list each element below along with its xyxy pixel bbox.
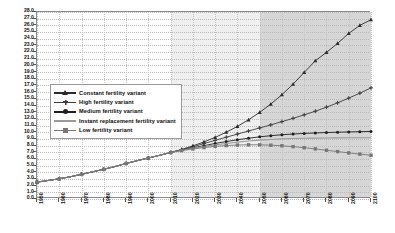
series-marker	[225, 144, 228, 147]
series-marker	[292, 133, 295, 136]
x-axis-tick	[103, 198, 104, 202]
y-axis-label: 8.0	[0, 142, 34, 147]
y-axis-label: 27.0	[0, 15, 34, 20]
series-marker	[324, 105, 328, 109]
legend-item-0[interactable]: Constant fertility variant	[54, 88, 176, 97]
y-axis-label: 28.0	[0, 8, 34, 13]
series-marker	[213, 138, 217, 142]
x-axis-tick	[170, 198, 171, 202]
y-axis-tick	[33, 125, 36, 126]
x-axis-label: 2020	[194, 192, 200, 204]
y-axis-label: 17.0	[0, 82, 34, 87]
x-axis-tick	[281, 198, 282, 202]
y-axis-tick	[33, 38, 36, 39]
series-marker	[235, 124, 239, 128]
y-axis-tick	[33, 64, 36, 65]
y-axis-tick	[33, 18, 36, 19]
legend-marker-none-icon	[54, 116, 76, 125]
series-marker	[303, 146, 306, 149]
series-marker	[258, 126, 262, 130]
y-axis-label: 0.0	[0, 195, 34, 200]
legend-label: Low fertility variant	[76, 127, 132, 133]
series-marker	[280, 133, 283, 136]
series-marker	[80, 173, 83, 176]
series-marker	[347, 151, 350, 154]
y-axis-tick	[33, 178, 36, 179]
x-axis-tick	[259, 198, 260, 202]
series-line-2	[37, 131, 371, 182]
y-axis-tick	[33, 91, 36, 92]
x-axis-label: 1990	[127, 192, 133, 204]
series-marker	[280, 120, 284, 124]
series-marker	[269, 143, 272, 146]
legend-marker-triangle-icon	[54, 88, 76, 97]
y-axis-label: 6.0	[0, 155, 34, 160]
series-marker	[258, 135, 261, 138]
series-marker	[247, 118, 251, 122]
legend-item-4[interactable]: Low fertility variant	[54, 126, 176, 135]
series-marker	[236, 143, 239, 146]
y-axis-label: 21.0	[0, 55, 34, 60]
series-marker	[169, 151, 172, 154]
series-marker	[314, 131, 317, 134]
series-marker	[225, 140, 228, 143]
series-marker	[191, 147, 194, 150]
series-marker	[302, 113, 306, 117]
legend-label: Instant replacement fertility variant	[76, 118, 176, 124]
series-line-4	[37, 145, 371, 182]
series-marker	[269, 134, 272, 137]
legend-item-2[interactable]: Medium fertility variant	[54, 107, 176, 116]
series-marker	[347, 96, 351, 100]
y-axis-tick	[33, 58, 36, 59]
x-axis-label: 2090	[350, 192, 356, 204]
series-marker	[347, 130, 350, 133]
y-axis-tick	[33, 185, 36, 186]
y-axis-tick	[33, 24, 36, 25]
y-axis-tick	[33, 31, 36, 32]
legend-marker-plus-icon	[54, 98, 76, 107]
y-axis-label: 7.0	[0, 149, 34, 154]
y-axis-label: 20.0	[0, 62, 34, 67]
y-axis-tick	[33, 151, 36, 152]
x-axis-label: 2040	[238, 192, 244, 204]
x-axis-tick	[81, 198, 82, 202]
y-axis-label: 11.0	[0, 122, 34, 127]
x-axis-label: 2100	[372, 192, 378, 204]
y-axis-tick	[33, 158, 36, 159]
y-axis-tick	[33, 171, 36, 172]
x-axis-label: 1950	[38, 192, 44, 204]
y-axis-tick	[33, 111, 36, 112]
x-axis-tick	[214, 198, 215, 202]
y-axis-tick	[33, 105, 36, 106]
y-axis-tick	[33, 131, 36, 132]
series-marker	[336, 101, 340, 105]
y-axis-label: 19.0	[0, 69, 34, 74]
x-axis-label: 1960	[60, 192, 66, 204]
legend-item-3[interactable]: Instant replacement fertility variant	[54, 116, 176, 125]
y-axis-tick	[33, 165, 36, 166]
y-axis-label: 4.0	[0, 169, 34, 174]
x-axis-tick	[125, 198, 126, 202]
y-axis-tick	[33, 78, 36, 79]
x-axis-label: 2010	[172, 192, 178, 204]
series-marker	[369, 154, 372, 157]
x-axis-tick	[370, 198, 371, 202]
series-marker	[124, 162, 127, 165]
series-marker	[236, 138, 239, 141]
series-marker	[247, 143, 250, 146]
y-axis-label: 5.0	[0, 162, 34, 167]
series-marker	[358, 152, 361, 155]
x-axis-label: 1970	[83, 192, 89, 204]
legend-label: Constant fertility variant	[76, 90, 146, 96]
series-marker	[35, 180, 38, 183]
legend-label: High fertility variant	[76, 99, 134, 105]
legend-item-1[interactable]: High fertility variant	[54, 97, 176, 106]
series-marker	[147, 156, 150, 159]
y-axis-tick	[33, 84, 36, 85]
x-axis-label: 2080	[327, 192, 333, 204]
series-marker	[213, 145, 216, 148]
series-marker	[258, 143, 261, 146]
series-marker	[202, 146, 205, 149]
series-marker	[314, 147, 317, 150]
y-axis-label: 1.0	[0, 189, 34, 194]
